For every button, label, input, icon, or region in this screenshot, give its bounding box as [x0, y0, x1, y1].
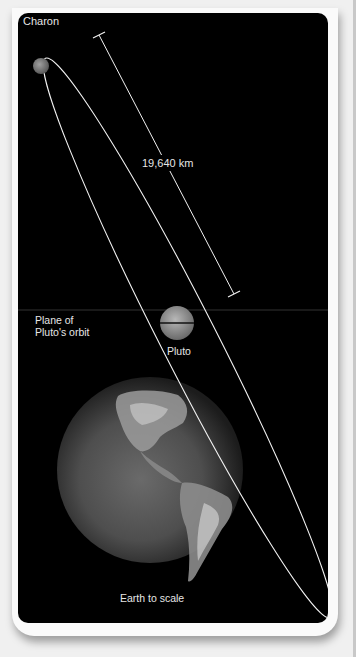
pluto-label: Pluto: [167, 345, 191, 357]
diagram-panel: Charon 19,640 km Plane of Pluto's orbit …: [18, 13, 328, 623]
charon-label: Charon: [23, 15, 59, 27]
earth: [57, 377, 243, 582]
plane-label-line1: Plane of: [35, 314, 74, 326]
earth-label: Earth to scale: [120, 592, 184, 604]
plane-label-line2: Pluto's orbit: [35, 326, 90, 338]
pluto: [160, 306, 194, 340]
charon: [33, 58, 49, 74]
distance-label: 19,640 km: [142, 157, 193, 169]
